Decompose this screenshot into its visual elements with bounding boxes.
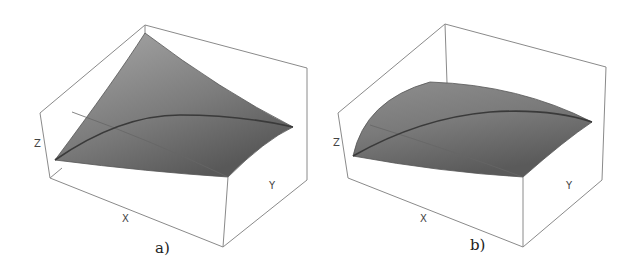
surface-b [353, 82, 592, 177]
panel-b: Z X Y b) [333, 24, 606, 254]
z-axis-label-a: Z [34, 138, 41, 149]
x-axis-label-b: X [420, 213, 427, 224]
z-axis-label-b: Z [333, 137, 340, 148]
panel-a: Z X Y a) [34, 25, 307, 257]
caption-a: a) [155, 239, 170, 257]
y-axis-label-b: Y [565, 180, 573, 191]
y-axis-label-a: Y [268, 180, 276, 191]
caption-b: b) [470, 236, 485, 254]
x-axis-label-a: X [122, 213, 129, 224]
surface-plots: Z X Y a) Z X Y b) [0, 0, 635, 272]
figure: Z X Y a) Z X Y b) [0, 0, 635, 272]
